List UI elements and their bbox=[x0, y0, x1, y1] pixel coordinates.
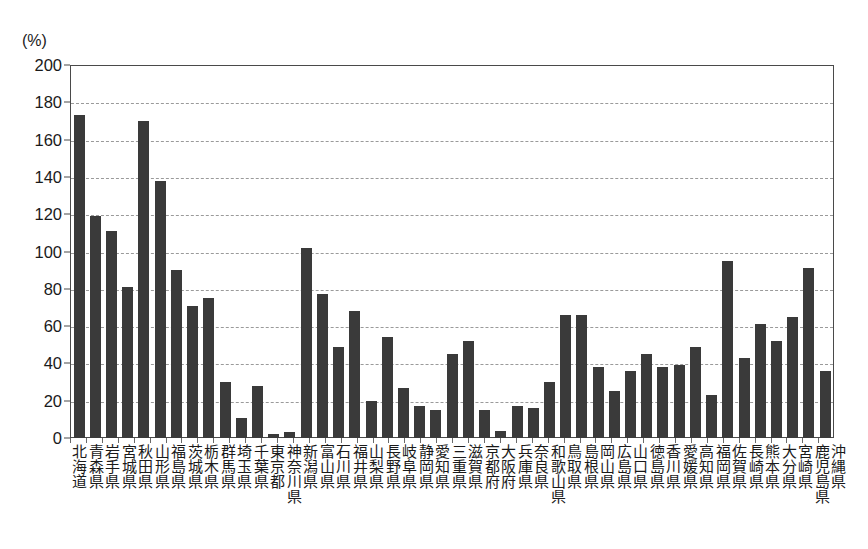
x-axis-label: 秋田県 bbox=[136, 444, 153, 544]
x-axis-label-cell: 群馬県 bbox=[219, 444, 236, 544]
x-axis-label: 山口県 bbox=[631, 444, 648, 544]
bar[interactable] bbox=[203, 298, 214, 438]
bar-slot bbox=[233, 65, 249, 438]
x-axis-label: 福岡県 bbox=[714, 444, 731, 544]
x-axis-label: 愛媛県 bbox=[681, 444, 698, 544]
bar-slot bbox=[282, 65, 298, 438]
bar[interactable] bbox=[512, 406, 523, 438]
y-axis-tick-label: 0 bbox=[53, 430, 62, 447]
bar[interactable] bbox=[122, 287, 133, 438]
bar[interactable] bbox=[382, 337, 393, 438]
x-axis-label-cell: 岡山県 bbox=[598, 444, 615, 544]
bar-slot bbox=[655, 65, 671, 438]
x-axis-label: 奈良県 bbox=[532, 444, 549, 544]
x-axis-label: 岡山県 bbox=[598, 444, 615, 544]
bar[interactable] bbox=[317, 294, 328, 438]
bar[interactable] bbox=[333, 347, 344, 438]
x-axis-label-cell: 長崎県 bbox=[747, 444, 764, 544]
bar-slot bbox=[606, 65, 622, 438]
bar[interactable] bbox=[803, 268, 814, 438]
bar-slot bbox=[298, 65, 314, 438]
bar-slot bbox=[574, 65, 590, 438]
x-axis-label-cell: 宮崎県 bbox=[796, 444, 813, 544]
bar[interactable] bbox=[155, 181, 166, 438]
bar[interactable] bbox=[674, 365, 685, 438]
x-axis-label-cell: 岐阜県 bbox=[400, 444, 417, 544]
bar-slot bbox=[249, 65, 265, 438]
bar[interactable] bbox=[641, 354, 652, 438]
x-axis-label-cell: 新潟県 bbox=[301, 444, 318, 544]
bar[interactable] bbox=[544, 382, 555, 438]
x-axis-label-cell: 山形県 bbox=[153, 444, 170, 544]
x-axis-label-cell: 愛媛県 bbox=[681, 444, 698, 544]
bar[interactable] bbox=[252, 386, 263, 438]
x-axis-label-cell: 宮城県 bbox=[120, 444, 137, 544]
bar-slot bbox=[493, 65, 509, 438]
bar[interactable] bbox=[138, 121, 149, 438]
x-axis-label: 滋賀県 bbox=[466, 444, 483, 544]
bar[interactable] bbox=[398, 388, 409, 438]
bar-slot bbox=[266, 65, 282, 438]
x-axis-label-cell: 香川県 bbox=[664, 444, 681, 544]
y-axis-tick-label: 60 bbox=[44, 318, 62, 335]
x-axis-label-cell: 京都府 bbox=[483, 444, 500, 544]
x-axis-label-cell: 東京都 bbox=[268, 444, 285, 544]
x-axis-label-cell: 鹿児島県 bbox=[813, 444, 830, 544]
top-clipped-text-artifact bbox=[18, 0, 578, 6]
bar-slot bbox=[720, 65, 736, 438]
bar[interactable] bbox=[479, 410, 490, 438]
bar[interactable] bbox=[739, 358, 750, 438]
bar[interactable] bbox=[349, 311, 360, 438]
x-axis-label-cell: 千葉県 bbox=[252, 444, 269, 544]
bar[interactable] bbox=[187, 306, 198, 438]
bar[interactable] bbox=[706, 395, 717, 438]
x-axis-label-cell: 岩手県 bbox=[103, 444, 120, 544]
x-axis-label: 長野県 bbox=[384, 444, 401, 544]
bar-series bbox=[70, 65, 834, 438]
bar[interactable] bbox=[657, 367, 668, 438]
x-axis-label: 神奈川県 bbox=[285, 444, 302, 544]
bar[interactable] bbox=[171, 270, 182, 438]
bar[interactable] bbox=[220, 382, 231, 438]
x-axis-label: 兵庫県 bbox=[516, 444, 533, 544]
bar[interactable] bbox=[528, 408, 539, 438]
bar-slot bbox=[476, 65, 492, 438]
y-axis-tick-label: 120 bbox=[34, 206, 62, 223]
bar[interactable] bbox=[820, 371, 831, 438]
bar[interactable] bbox=[301, 248, 312, 438]
bar[interactable] bbox=[463, 341, 474, 438]
bar[interactable] bbox=[787, 317, 798, 438]
y-axis-tick-label: 80 bbox=[44, 281, 62, 298]
x-axis-label: 鹿児島県 bbox=[813, 444, 830, 544]
x-axis-label-cell: 滋賀県 bbox=[466, 444, 483, 544]
bar-slot bbox=[671, 65, 687, 438]
bar[interactable] bbox=[755, 324, 766, 438]
bar[interactable] bbox=[576, 315, 587, 438]
x-axis-label: 鳥取県 bbox=[565, 444, 582, 544]
bar[interactable] bbox=[609, 391, 620, 438]
x-axis-label: 熊本県 bbox=[763, 444, 780, 544]
bar[interactable] bbox=[236, 418, 247, 439]
bar[interactable] bbox=[430, 410, 441, 438]
x-axis-label: 茨城県 bbox=[186, 444, 203, 544]
x-axis-label-cell: 和歌山県 bbox=[549, 444, 566, 544]
bar[interactable] bbox=[106, 231, 117, 438]
bar[interactable] bbox=[414, 406, 425, 438]
bar[interactable] bbox=[690, 347, 701, 438]
x-axis-label: 埼玉県 bbox=[235, 444, 252, 544]
bar[interactable] bbox=[90, 216, 101, 438]
bar[interactable] bbox=[625, 371, 636, 438]
bar[interactable] bbox=[771, 341, 782, 438]
bar[interactable] bbox=[495, 431, 506, 438]
bar-slot bbox=[379, 65, 395, 438]
bar[interactable] bbox=[447, 354, 458, 438]
x-axis-label: 静岡県 bbox=[417, 444, 434, 544]
bar-slot bbox=[395, 65, 411, 438]
bar[interactable] bbox=[366, 401, 377, 438]
x-axis-label: 福島県 bbox=[169, 444, 186, 544]
bar[interactable] bbox=[560, 315, 571, 438]
bar[interactable] bbox=[593, 367, 604, 438]
bar-slot bbox=[622, 65, 638, 438]
bar[interactable] bbox=[722, 261, 733, 438]
bar[interactable] bbox=[74, 115, 85, 438]
